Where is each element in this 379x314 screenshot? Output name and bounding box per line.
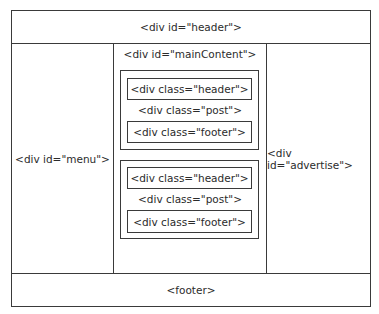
post-header-box: <div class="header"> bbox=[127, 167, 252, 189]
footer-label: <footer> bbox=[166, 284, 215, 296]
post-header-box: <div class="header"> bbox=[127, 78, 252, 100]
post-header-label: <div class="header"> bbox=[130, 172, 248, 184]
advertise-label: <div id="advertise"> bbox=[267, 147, 370, 171]
header-region: <div id="header"> bbox=[11, 10, 371, 44]
post-footer-label: <div class="footer"> bbox=[133, 216, 246, 228]
footer-region: <footer> bbox=[11, 273, 371, 307]
header-label: <div id="header"> bbox=[140, 21, 242, 33]
post-footer-box: <div class="footer"> bbox=[127, 210, 252, 233]
post-label: <div class="post"> bbox=[138, 104, 242, 116]
menu-label: <div id="menu"> bbox=[15, 153, 110, 165]
menu-region: <div id="menu"> bbox=[11, 43, 114, 274]
post-footer-label: <div class="footer"> bbox=[133, 126, 246, 138]
advertise-region: <div id="advertise"> bbox=[266, 43, 371, 274]
post-footer-box: <div class="footer"> bbox=[127, 121, 252, 143]
post-label: <div class="post"> bbox=[138, 193, 242, 205]
post-header-label: <div class="header"> bbox=[130, 83, 248, 95]
main-content-label: <div id="mainContent"> bbox=[124, 48, 257, 60]
